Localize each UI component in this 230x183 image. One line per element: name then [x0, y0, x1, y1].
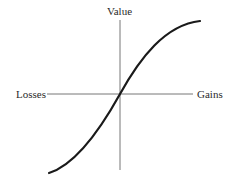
value-function-diagram: Value Losses Gains: [0, 0, 230, 183]
y-axis-label: Value: [107, 5, 132, 17]
value-curve: [49, 21, 200, 173]
gains-label: Gains: [197, 88, 223, 100]
losses-label: Losses: [16, 88, 46, 100]
